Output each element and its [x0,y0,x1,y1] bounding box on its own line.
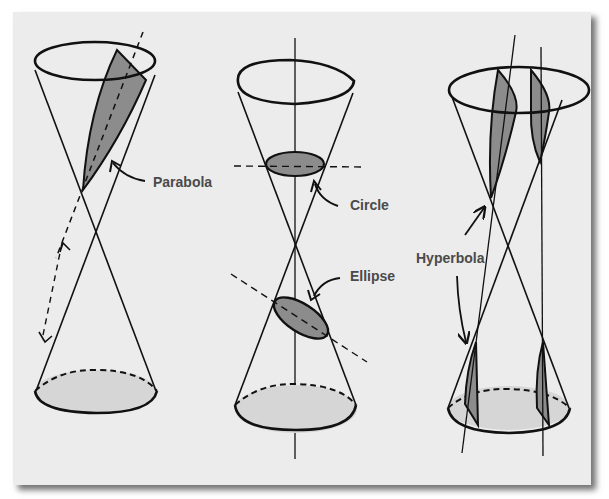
ellipse-pointer-arrow [314,278,340,296]
hyperbola-upper-branch-2 [531,70,549,162]
hyperbola-upper-branch-1 [490,70,517,198]
hyperbola-label: Hyperbola [416,250,485,266]
parabola-section [83,50,146,190]
conic-sections-diagram: Parabola Circle Ellipse [0,0,609,499]
circle-ellipse-cone: Circle Ellipse [231,38,395,459]
hyperbola-cone: Hyperbola [416,35,589,456]
ellipse-label: Ellipse [350,268,395,284]
circle-label: Circle [350,197,389,213]
parabola-cone: Parabola [35,32,212,413]
parabola-label: Parabola [153,174,212,190]
ellipse-section [267,289,334,346]
parabola-base-fill [35,370,157,412]
hyperbola-upper-pointer-arrow [465,208,484,235]
circle-section [266,152,324,176]
hyperbola-lower-pointer-arrow [457,276,466,342]
